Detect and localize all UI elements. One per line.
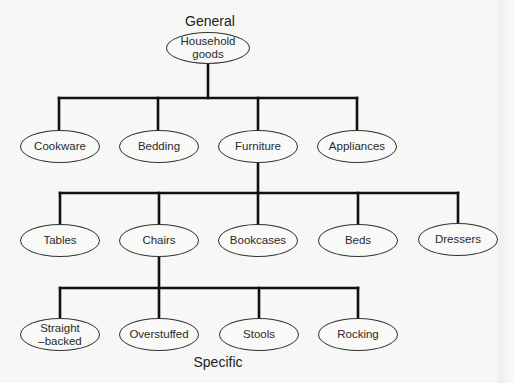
node-appliances: Appliances — [317, 130, 397, 163]
node-overstuffed: Overstuffed — [119, 318, 199, 351]
node-straight-backed-line2: –backed — [38, 335, 81, 348]
node-household-goods-line1: Household — [181, 35, 236, 48]
node-chairs: Chairs — [119, 224, 199, 257]
node-bookcases: Bookcases — [218, 224, 298, 257]
general-label: General — [170, 13, 250, 29]
node-straight-backed-line1: Straight — [38, 322, 81, 335]
node-furniture: Furniture — [218, 130, 298, 163]
node-stools: Stools — [219, 318, 299, 351]
node-dressers: Dressers — [418, 223, 498, 256]
node-household-goods-line2: goods — [181, 48, 236, 61]
node-straight-backed: Straight –backed — [20, 318, 100, 351]
node-bedding: Bedding — [119, 130, 199, 163]
node-rocking: Rocking — [318, 318, 398, 351]
node-beds: Beds — [318, 224, 398, 257]
node-cookware: Cookware — [20, 130, 100, 163]
node-household-goods: Household goods — [166, 32, 250, 64]
node-tables: Tables — [20, 224, 100, 257]
specific-label: Specific — [183, 354, 253, 370]
